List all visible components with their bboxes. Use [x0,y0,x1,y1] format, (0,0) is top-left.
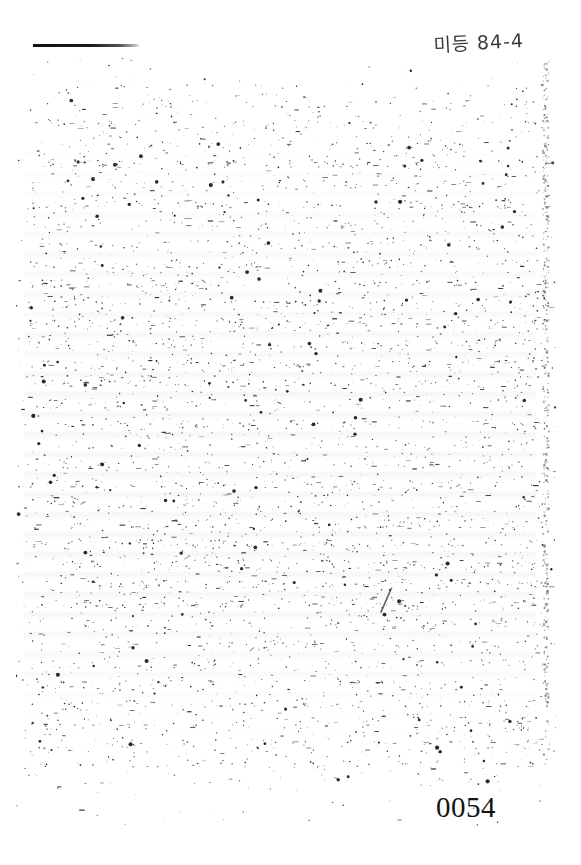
diagonal-pen-stroke [378,588,394,614]
scan-speckle-noise [16,58,556,828]
horizontal-rule [33,44,139,47]
page-number: 0054 [436,791,496,823]
ghost-text-lines [24,140,536,750]
vertical-scan-artifact [540,60,552,760]
scanned-page: 미등 84-4 0054 [0,0,581,865]
handwritten-note: 미등 84-4 [433,24,545,64]
